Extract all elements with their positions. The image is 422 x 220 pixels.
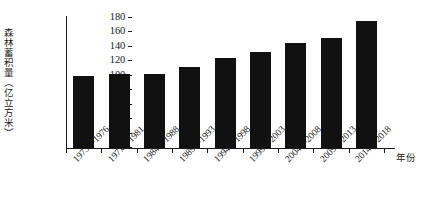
x-tick-mark [313, 149, 314, 153]
x-axis-title: 年份 [396, 150, 416, 164]
bar [215, 58, 236, 148]
bar-chart: 森林蓄积量（亿立方米） 1801601401201008040200 1973—… [0, 0, 422, 220]
y-tick-label: 180 [110, 11, 125, 22]
y-tick-label: 120 [110, 54, 125, 65]
x-tick-mark [137, 149, 138, 153]
x-tick-mark [243, 149, 244, 153]
bar [321, 38, 342, 148]
y-tick-mark [128, 46, 132, 47]
y-tick-mark [128, 31, 132, 32]
x-tick-mark [384, 149, 385, 153]
y-tick-mark [128, 17, 132, 18]
bar [250, 52, 271, 148]
y-tick-label: 140 [110, 40, 125, 51]
bar [285, 43, 306, 148]
y-axis-title: 森林蓄积量（亿立方米） [1, 8, 16, 158]
x-tick-mark-origin [66, 149, 67, 153]
x-tick-mark [207, 149, 208, 153]
plot-area: 1801601401201008040200 [66, 18, 384, 148]
y-tick-mark [128, 60, 132, 61]
x-tick-mark [278, 149, 279, 153]
y-tick-label: 160 [110, 25, 125, 36]
bar [356, 21, 377, 148]
x-tick-mark [349, 149, 350, 153]
x-tick-mark [172, 149, 173, 153]
x-tick-mark [101, 149, 102, 153]
